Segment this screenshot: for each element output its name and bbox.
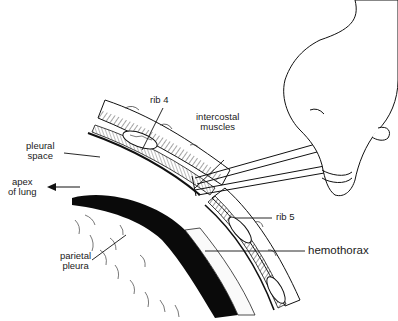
label-apex-of-lung: apex of lung <box>8 177 37 197</box>
label-intercostal-muscles: intercostal muscles <box>196 112 239 132</box>
label-rib-5: rib 5 <box>276 212 294 222</box>
diagram-canvas: rib 4 intercostal muscles pleural space … <box>0 0 398 321</box>
label-pleural-line2: space <box>26 151 55 161</box>
apex-arrow <box>47 183 80 191</box>
label-intercostal-line2: muscles <box>196 122 239 132</box>
hand <box>284 0 398 196</box>
illustration <box>0 0 398 321</box>
label-apex-line2: of lung <box>8 187 37 197</box>
label-pleural-space: pleural space <box>26 141 55 161</box>
label-parietal-line2: pleura <box>60 261 91 271</box>
label-parietal-pleura: parietal pleura <box>60 251 91 271</box>
label-rib-4: rib 4 <box>150 95 168 105</box>
label-hemothorax: hemothorax <box>308 245 369 255</box>
